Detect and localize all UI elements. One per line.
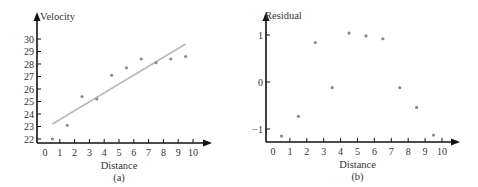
data-point: [415, 106, 418, 109]
regression-line: [52, 44, 185, 124]
data-point: [331, 86, 334, 89]
y-tick-label: 25: [24, 96, 34, 107]
panel-b-residual-vs-distance: Residual−101012345678910Distance(b): [252, 10, 460, 183]
x-tick-label: 1: [57, 147, 62, 158]
x-tick-label: 9: [423, 146, 428, 157]
x-tick-label: 6: [131, 147, 136, 158]
x-tick-label: 2: [72, 147, 77, 158]
y-axis-label: Velocity: [40, 11, 76, 22]
data-point: [110, 74, 113, 77]
x-tick-label: 6: [372, 146, 377, 157]
panel-label: (a): [113, 172, 125, 184]
y-axis-label: Residual: [265, 10, 302, 21]
y-tick-label: −1: [252, 124, 263, 135]
data-point: [140, 57, 143, 60]
x-tick-label: 8: [406, 146, 411, 157]
x-tick-label: 1: [287, 146, 292, 157]
data-point: [432, 134, 435, 137]
y-tick-label: 27: [24, 71, 34, 82]
data-point: [347, 32, 350, 35]
data-point: [364, 34, 367, 37]
y-tick-label: 26: [24, 84, 34, 95]
x-tick-label: 8: [161, 147, 166, 158]
data-point: [169, 57, 172, 60]
figure: Velocity222324252627282930012345678910Di…: [0, 0, 478, 187]
data-point: [95, 97, 98, 100]
y-tick-label: 23: [24, 121, 34, 132]
data-point: [125, 66, 128, 69]
data-point: [66, 124, 69, 127]
x-tick-label: 5: [117, 147, 122, 158]
data-point: [314, 41, 317, 44]
x-tick-label: 7: [146, 147, 151, 158]
y-tick-label: 22: [24, 134, 34, 145]
x-axis-label: Distance: [339, 159, 376, 170]
y-tick-label: 1: [258, 30, 263, 41]
data-point: [80, 95, 83, 98]
x-tick-label: 4: [338, 146, 343, 157]
x-axis-label: Distance: [101, 160, 138, 171]
x-tick-label: 10: [437, 146, 447, 157]
x-tick-label: 10: [188, 147, 198, 158]
panel-label: (b): [351, 171, 364, 183]
x-tick-label: 3: [87, 147, 92, 158]
x-tick-label: 4: [102, 147, 107, 158]
x-tick-label: 7: [389, 146, 394, 157]
data-point: [398, 86, 401, 89]
data-point: [280, 134, 283, 137]
data-point: [184, 55, 187, 58]
y-tick-label: 30: [24, 34, 34, 45]
x-tick-label: 9: [176, 147, 181, 158]
x-tick-label: 5: [355, 146, 360, 157]
x-tick-label: 2: [304, 146, 309, 157]
y-tick-label: 24: [24, 109, 34, 120]
data-point: [154, 61, 157, 64]
y-tick-label: 29: [24, 46, 34, 57]
x-axis-arrow-icon: [451, 139, 460, 146]
x-tick-label: 3: [321, 146, 326, 157]
panel-a-velocity-vs-distance: Velocity222324252627282930012345678910Di…: [24, 11, 212, 184]
data-point: [381, 37, 384, 40]
data-point: [297, 115, 300, 118]
y-tick-label: 0: [258, 77, 263, 88]
data-point: [51, 137, 54, 140]
x-tick-label: 0: [43, 147, 48, 158]
y-tick-label: 28: [24, 59, 34, 70]
x-tick-label: 0: [271, 146, 276, 157]
x-axis-arrow-icon: [203, 140, 212, 147]
